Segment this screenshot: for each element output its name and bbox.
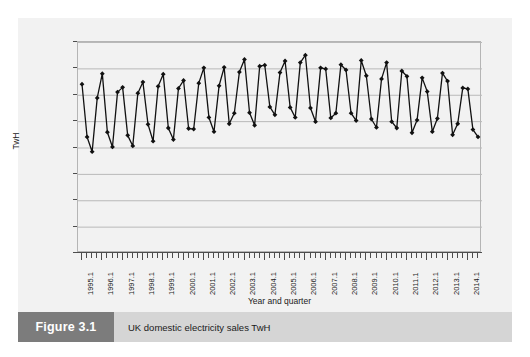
x-tick-mark bbox=[355, 253, 356, 258]
data-point-marker bbox=[156, 84, 161, 89]
x-tick-mark bbox=[457, 253, 458, 258]
x-tick-mark bbox=[462, 253, 463, 258]
x-tick-mark bbox=[193, 253, 194, 258]
x-tick-label: 2014.1 bbox=[473, 272, 481, 295]
x-tick-mark bbox=[208, 253, 209, 258]
gridlines bbox=[78, 43, 482, 228]
x-tick-label: 2000.1 bbox=[189, 272, 197, 295]
x-tick-mark bbox=[284, 253, 285, 260]
x-tick-mark bbox=[147, 253, 148, 258]
x-tick-mark bbox=[152, 253, 153, 258]
x-tick-mark bbox=[218, 253, 219, 258]
x-axis-ticks bbox=[77, 253, 482, 261]
data-point-marker bbox=[318, 65, 323, 70]
figure-number-box: Figure 3.1 bbox=[18, 312, 114, 342]
figure-caption-bar: Figure 3.1 UK domestic electricity sales… bbox=[18, 312, 512, 342]
x-tick-mark bbox=[122, 253, 123, 260]
x-tick-label: 2006.1 bbox=[310, 272, 318, 295]
x-tick-mark bbox=[157, 253, 158, 258]
x-tick-mark bbox=[421, 253, 422, 258]
figure-caption-text: UK domestic electricity sales TwH bbox=[128, 322, 270, 333]
x-tick-mark bbox=[452, 253, 453, 258]
x-tick-mark bbox=[112, 253, 113, 258]
x-tick-mark bbox=[238, 253, 239, 258]
x-tick-mark bbox=[396, 253, 397, 258]
data-point-marker bbox=[196, 81, 201, 86]
data-point-marker bbox=[450, 132, 455, 137]
x-tick-mark bbox=[391, 253, 392, 258]
data-point-marker bbox=[232, 111, 237, 116]
data-point-marker bbox=[100, 71, 105, 76]
x-tick-mark bbox=[213, 253, 214, 258]
data-point-marker bbox=[435, 116, 440, 121]
x-tick-label: 2005.1 bbox=[290, 272, 298, 295]
x-tick-label: 2004.1 bbox=[270, 272, 278, 295]
x-tick-mark bbox=[203, 253, 204, 260]
x-tick-mark bbox=[376, 253, 377, 258]
x-tick-mark bbox=[172, 253, 173, 258]
x-tick-label: 1996.1 bbox=[107, 272, 115, 295]
x-tick-mark bbox=[304, 253, 305, 260]
x-tick-mark bbox=[431, 253, 432, 258]
data-point-marker bbox=[237, 70, 242, 75]
data-point-marker bbox=[217, 83, 222, 88]
data-point-marker bbox=[313, 119, 318, 124]
x-tick-label: 2011.1 bbox=[412, 273, 420, 295]
x-tick-mark bbox=[198, 253, 199, 258]
x-tick-mark bbox=[137, 253, 138, 258]
x-tick-mark bbox=[259, 253, 260, 258]
x-tick-mark bbox=[330, 253, 331, 258]
data-point-marker bbox=[191, 127, 196, 132]
x-tick-mark bbox=[279, 253, 280, 258]
data-point-marker bbox=[460, 85, 465, 90]
x-tick-mark bbox=[101, 253, 102, 260]
x-tick-mark bbox=[274, 253, 275, 258]
x-tick-mark bbox=[325, 253, 326, 260]
x-tick-mark bbox=[183, 253, 184, 260]
x-tick-mark bbox=[249, 253, 250, 258]
data-point-marker bbox=[242, 57, 247, 62]
data-point-marker bbox=[359, 58, 364, 63]
x-tick-label: 2013.1 bbox=[453, 272, 461, 295]
x-tick-mark bbox=[467, 253, 468, 260]
figure-caption-box: UK domestic electricity sales TwH bbox=[114, 312, 512, 342]
data-point-marker bbox=[425, 89, 430, 94]
x-tick-mark bbox=[477, 253, 478, 258]
x-tick-label: 1995.1 bbox=[87, 272, 95, 295]
x-tick-mark bbox=[254, 253, 255, 258]
data-point-marker bbox=[166, 126, 171, 131]
x-tick-mark bbox=[244, 253, 245, 260]
data-point-marker bbox=[283, 59, 288, 64]
x-tick-mark bbox=[233, 253, 234, 258]
data-point-marker bbox=[161, 72, 166, 77]
x-tick-label: 2007.1 bbox=[331, 272, 339, 295]
x-tick-mark bbox=[223, 253, 224, 260]
data-point-marker bbox=[430, 129, 435, 134]
x-tick-label: 2010.1 bbox=[392, 272, 400, 295]
x-tick-mark bbox=[447, 253, 448, 260]
x-tick-mark bbox=[310, 253, 311, 258]
x-tick-label: 2008.1 bbox=[351, 272, 359, 295]
x-tick-mark bbox=[442, 253, 443, 258]
x-tick-mark bbox=[86, 253, 87, 258]
x-tick-mark bbox=[370, 253, 371, 258]
x-tick-mark bbox=[106, 253, 107, 258]
x-tick-label: 1998.1 bbox=[148, 272, 156, 295]
chart-series-svg bbox=[78, 42, 482, 253]
series-line-uk-domestic-electricity-sales bbox=[82, 55, 478, 152]
x-tick-mark bbox=[117, 253, 118, 258]
x-tick-mark bbox=[178, 253, 179, 258]
x-tick-mark bbox=[289, 253, 290, 258]
data-point-marker bbox=[384, 60, 389, 65]
data-point-marker bbox=[125, 133, 130, 138]
x-tick-mark bbox=[472, 253, 473, 258]
data-point-marker bbox=[85, 135, 90, 140]
data-point-marker bbox=[207, 115, 212, 120]
x-tick-mark bbox=[269, 253, 270, 258]
x-tick-mark bbox=[426, 253, 427, 260]
data-point-marker bbox=[379, 77, 384, 82]
data-point-marker bbox=[247, 110, 252, 115]
x-tick-mark bbox=[401, 253, 402, 258]
x-tick-mark bbox=[406, 253, 407, 260]
x-tick-mark bbox=[381, 253, 382, 258]
